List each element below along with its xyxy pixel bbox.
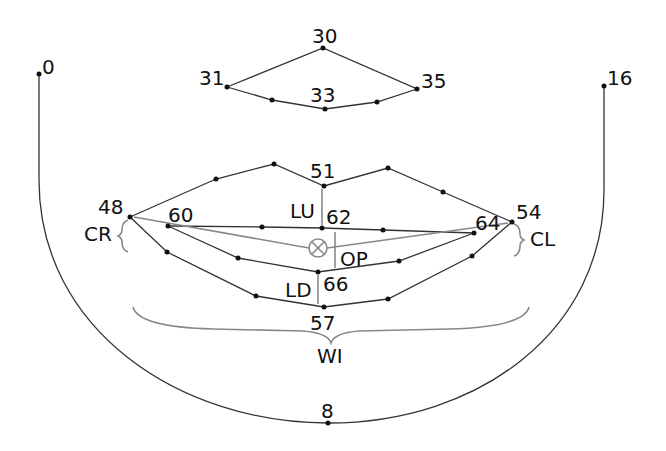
facial-landmark-diagram: 0 16 8 30 31 33 35 48 51 54 57 60 62 64 … [0, 0, 666, 451]
measure-line-left [134, 217, 309, 248]
label-WI: WI [317, 344, 343, 368]
label-51: 51 [310, 159, 335, 183]
cr-brace [118, 220, 128, 252]
label-0: 0 [42, 55, 55, 79]
label-35: 35 [421, 69, 446, 93]
label-33: 33 [310, 83, 335, 107]
label-LD: LD [285, 278, 312, 302]
cl-brace [514, 224, 524, 256]
label-62: 62 [326, 205, 351, 229]
label-54: 54 [516, 200, 541, 224]
label-64: 64 [475, 211, 500, 235]
label-8: 8 [321, 399, 334, 423]
label-CR: CR [84, 222, 112, 246]
label-30: 30 [312, 24, 337, 48]
label-48: 48 [98, 195, 123, 219]
label-OP: OP [340, 247, 368, 271]
label-66: 66 [323, 272, 348, 296]
label-LU: LU [290, 199, 315, 223]
label-60: 60 [168, 203, 193, 227]
label-31: 31 [199, 66, 224, 90]
label-16: 16 [607, 66, 632, 90]
label-CL: CL [530, 227, 556, 251]
label-57: 57 [310, 311, 335, 335]
